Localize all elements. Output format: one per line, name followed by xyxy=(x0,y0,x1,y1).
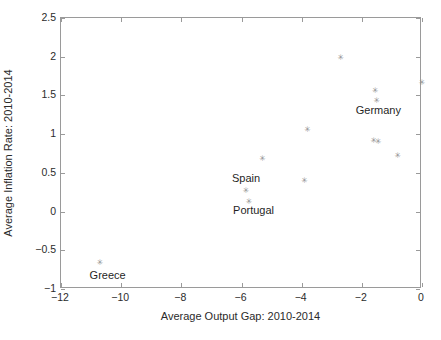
x-axis-tick xyxy=(181,283,182,287)
y-axis-tick xyxy=(61,18,65,19)
data-point-marker xyxy=(96,258,105,267)
x-axis-tick xyxy=(242,18,243,22)
y-axis-tick xyxy=(416,289,420,290)
x-axis-title: Average Output Gap: 2010-2014 xyxy=(60,310,421,322)
y-axis-title-text: Average Inflation Rate: 2010-2014 xyxy=(2,69,14,236)
y-axis-tick xyxy=(416,18,420,19)
data-layer: GreeceSpainPortugalGermany xyxy=(61,18,420,287)
x-axis-tick xyxy=(302,18,303,22)
x-axis-tick-label: −6 xyxy=(235,291,247,303)
y-axis-tick xyxy=(416,57,420,58)
data-point-marker xyxy=(393,151,402,160)
x-axis-tick xyxy=(422,18,423,22)
x-axis-tick xyxy=(362,18,363,22)
y-axis-tick xyxy=(61,212,65,213)
point-annotation: Germany xyxy=(356,104,401,116)
y-axis-tick-label: −0.5 xyxy=(35,243,56,255)
y-axis-tick-label: 0 xyxy=(50,205,56,217)
point-annotation: Portugal xyxy=(233,204,274,216)
y-axis-tick xyxy=(416,250,420,251)
y-axis-tick xyxy=(416,173,420,174)
y-axis-tick-label: 1 xyxy=(50,127,56,139)
x-axis-tick-label: −4 xyxy=(295,291,307,303)
y-axis-tick xyxy=(61,173,65,174)
y-axis-tick xyxy=(416,134,420,135)
x-axis-tick xyxy=(61,283,62,287)
data-point-marker xyxy=(300,176,309,185)
y-axis-tick-label: 0.5 xyxy=(41,166,56,178)
y-axis-title: Average Inflation Rate: 2010-2014 xyxy=(0,17,16,288)
y-axis-tick-label: −1 xyxy=(44,282,56,294)
y-axis-tick xyxy=(416,95,420,96)
x-axis-tick-label: −2 xyxy=(355,291,367,303)
y-axis-tick xyxy=(61,134,65,135)
x-axis-tick xyxy=(422,283,423,287)
x-axis-title-text: Average Output Gap: 2010-2014 xyxy=(161,310,320,322)
x-axis-tick-label: −8 xyxy=(174,291,186,303)
y-axis-tick-label: 2.5 xyxy=(41,11,56,23)
x-axis-tick xyxy=(362,283,363,287)
scatter-chart-figure: Average Inflation Rate: 2010-2014 Greece… xyxy=(0,0,441,340)
data-point-marker xyxy=(374,137,383,146)
y-axis-tick-label: 2 xyxy=(50,50,56,62)
y-axis-tick-label: 1.5 xyxy=(41,88,56,100)
y-axis-tick xyxy=(61,95,65,96)
point-annotation: Greece xyxy=(90,269,126,281)
data-point-marker xyxy=(418,78,427,87)
data-point-marker xyxy=(371,86,380,95)
x-axis-tick-label: 0 xyxy=(418,291,424,303)
y-axis-tick xyxy=(416,212,420,213)
x-axis-tick xyxy=(181,18,182,22)
x-axis-tick xyxy=(121,18,122,22)
y-axis-tick xyxy=(61,57,65,58)
data-point-marker xyxy=(258,154,267,163)
plot-area: GreeceSpainPortugalGermany xyxy=(60,17,421,288)
x-axis-tick xyxy=(121,283,122,287)
data-point-marker xyxy=(303,125,312,134)
point-annotation: Spain xyxy=(232,172,260,184)
x-axis-tick xyxy=(242,283,243,287)
y-axis-tick xyxy=(61,289,65,290)
x-axis-tick xyxy=(302,283,303,287)
data-point-marker xyxy=(242,186,251,195)
x-axis-tick-label: −10 xyxy=(111,291,129,303)
y-axis-tick xyxy=(61,250,65,251)
data-point-marker xyxy=(336,53,345,62)
